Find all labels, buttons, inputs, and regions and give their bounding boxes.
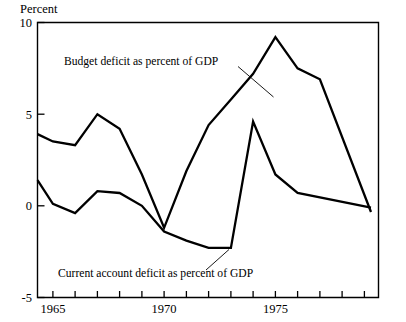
y-tick-label-0: 0 bbox=[26, 199, 32, 213]
x-tick-label-1970: 1970 bbox=[152, 302, 177, 316]
series-current-account-deficit-line bbox=[38, 122, 372, 248]
x-tick-label-1965: 1965 bbox=[40, 302, 65, 316]
percent-line-chart: 10 5 0 -5 Percent 1965 1970 1975 Budget … bbox=[0, 0, 406, 322]
y-tick-label-minus5: -5 bbox=[22, 291, 32, 305]
current-account-annotation-label: Current account deficit as percent of GD… bbox=[58, 267, 253, 280]
budget-annotation-label: Budget deficit as percent of GDP bbox=[64, 55, 218, 68]
x-tick-label-1975: 1975 bbox=[263, 302, 288, 316]
y-tick-label-10: 10 bbox=[20, 16, 33, 30]
y-tick-label-5: 5 bbox=[26, 108, 32, 122]
chart-figure: 10 5 0 -5 Percent 1965 1970 1975 Budget … bbox=[0, 0, 406, 322]
y-axis-title: Percent bbox=[20, 2, 58, 16]
